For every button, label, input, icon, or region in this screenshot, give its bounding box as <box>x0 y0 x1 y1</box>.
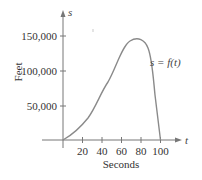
y-tick-label: 150,000 <box>21 30 57 42</box>
y-tick-label: 100,000 <box>21 65 57 77</box>
curve-label: s = f(t) <box>150 56 181 69</box>
x-axis-arrow-icon <box>175 138 182 143</box>
x-tick-label: 40 <box>97 145 109 157</box>
curve-s-of-t <box>63 39 161 140</box>
x-tick-label: 100 <box>152 145 169 157</box>
x-axis-symbol: t <box>185 134 189 146</box>
chart: s t 150,000 100,000 50,000 20 40 60 80 1… <box>0 0 202 180</box>
y-axis-title: Feet <box>12 63 24 82</box>
y-axis-arrow-icon <box>61 10 66 17</box>
x-tick-label: 20 <box>77 145 89 157</box>
x-tick-label: 60 <box>116 145 128 157</box>
y-ticks: 150,000 100,000 50,000 <box>21 30 66 112</box>
y-tick-label: 50,000 <box>27 100 58 112</box>
x-tick-label: 80 <box>136 145 148 157</box>
y-axis-symbol: s <box>68 6 72 18</box>
x-axis-title: Seconds <box>103 158 140 170</box>
